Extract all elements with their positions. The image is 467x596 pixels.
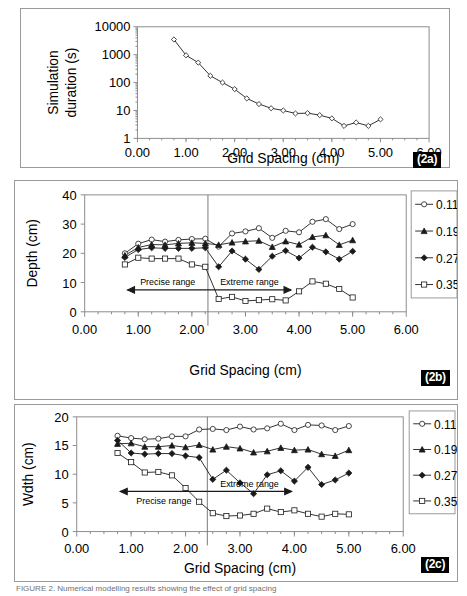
data-point-marker [270, 297, 275, 302]
data-point-marker [296, 289, 301, 294]
data-point-marker [251, 511, 256, 516]
y-tick-label: 10000 [95, 19, 131, 34]
y-tick-label: 20 [54, 410, 68, 425]
panel-label-2c: (2c) [421, 557, 449, 573]
annotation-extreme-range: Extreme range [208, 277, 291, 293]
y-tick-label: 10 [62, 276, 76, 291]
plot-area-2b [85, 195, 407, 312]
data-point-marker [278, 421, 283, 426]
data-point-marker [292, 508, 297, 513]
data-point-marker [142, 437, 147, 442]
chart-2a-simulation-duration: 1101001000100000.001.002.003.004.005.006… [21, 9, 449, 167]
legend-2b: 0.110.190.270.35 [411, 191, 457, 298]
legend-marker [420, 421, 425, 426]
data-point-marker [210, 476, 216, 482]
x-axis-title-2a: Grid Spacing (cm) [227, 150, 339, 166]
chart-panel-2c: 051015200.001.002.003.004.005.006.00Prec… [14, 404, 458, 582]
panel-label-2a: (2a) [413, 152, 441, 168]
x-tick-label: 6.00 [394, 322, 419, 337]
y-tick-label: 0 [70, 305, 77, 320]
data-point-marker [319, 423, 324, 428]
data-point-marker [336, 256, 342, 262]
figure-caption: FIGURE 2. Numerical modelling results sh… [16, 584, 456, 593]
y-tick-label: 5 [62, 496, 69, 511]
annotation-arrow-head [120, 488, 127, 494]
x-tick-label: 0.00 [125, 145, 150, 160]
legend-item-label: 0.27 [434, 469, 457, 483]
data-point-marker [203, 264, 208, 269]
data-point-marker [283, 298, 288, 303]
annotation-arrow-head [128, 287, 135, 293]
legend-item-label: 0.35 [434, 495, 457, 509]
annotation-arrow-head [285, 488, 292, 494]
data-point-marker [323, 232, 329, 238]
annotation-label: Extreme range [220, 479, 279, 489]
data-point-marker [332, 477, 338, 483]
y-tick-label: 1 [123, 131, 130, 146]
data-point-marker [243, 229, 248, 234]
data-point-marker [341, 123, 346, 128]
y-tick-label: 20 [62, 246, 76, 261]
data-point-marker [256, 226, 261, 231]
data-point-marker [346, 447, 352, 453]
data-point-marker [296, 230, 301, 235]
y-tick-label: 15 [54, 439, 68, 454]
legend-item-label: 0.11 [434, 418, 457, 432]
data-point-marker [197, 427, 202, 432]
data-point-marker [229, 231, 234, 236]
data-point-marker [310, 219, 315, 224]
x-tick-label: 6.00 [391, 541, 416, 556]
data-point-marker [305, 511, 310, 516]
data-point-marker [169, 434, 174, 439]
data-point-marker [378, 117, 383, 122]
data-point-marker [269, 106, 274, 111]
data-point-marker [346, 470, 352, 476]
chart-2c-width: 051015200.001.002.003.004.005.006.00Prec… [15, 405, 457, 581]
data-point-marker [333, 511, 338, 516]
panel-label-2b: (2b) [421, 370, 450, 386]
data-point-marker [189, 262, 194, 267]
data-point-marker [319, 451, 325, 457]
data-point-marker [323, 217, 328, 222]
data-point-marker [216, 296, 221, 301]
data-point-marker [305, 422, 310, 427]
data-point-marker [269, 244, 275, 250]
figure-2: 1101001000100000.001.002.003.004.005.006… [0, 0, 467, 596]
data-point-marker [264, 472, 270, 478]
annotation-precise-range: Precise range [128, 277, 208, 293]
data-point-marker [243, 298, 248, 303]
data-point-marker [162, 256, 167, 261]
y-tick-label: 10 [54, 467, 68, 482]
x-tick-label: 2.00 [179, 322, 204, 337]
series-markers-simulation-duration [171, 37, 383, 129]
legend-marker [420, 498, 425, 503]
data-point-marker [350, 248, 356, 254]
series-line-simulation-duration [174, 39, 381, 125]
legend-item-label: 0.11 [436, 198, 457, 212]
x-tick-label: 1.00 [119, 541, 144, 556]
y-axis-title-2b: Depth (cm) [24, 219, 40, 288]
data-point-marker [142, 451, 148, 457]
legend-2c: 0.110.190.270.35 [409, 411, 457, 514]
data-point-marker [196, 455, 202, 461]
data-point-marker [224, 514, 229, 519]
data-point-marker [182, 453, 188, 459]
annotation-arrow-head [284, 287, 291, 293]
data-point-marker [224, 427, 229, 432]
legend-marker [422, 202, 427, 207]
data-point-marker [336, 242, 342, 248]
annotation-label: Precise range [136, 496, 191, 506]
data-point-marker [329, 116, 334, 121]
data-point-marker [354, 120, 359, 125]
data-point-marker [346, 512, 351, 517]
x-tick-label: 3.00 [227, 541, 252, 556]
data-point-marker [350, 222, 355, 227]
data-point-marker [319, 514, 324, 519]
x-tick-label: 0.00 [72, 322, 97, 337]
data-point-marker [337, 286, 342, 291]
data-point-marker [155, 451, 161, 457]
x-tick-label: 0.00 [64, 541, 89, 556]
data-point-marker [115, 450, 120, 455]
legend-marker [422, 282, 427, 287]
data-point-marker [220, 80, 225, 85]
